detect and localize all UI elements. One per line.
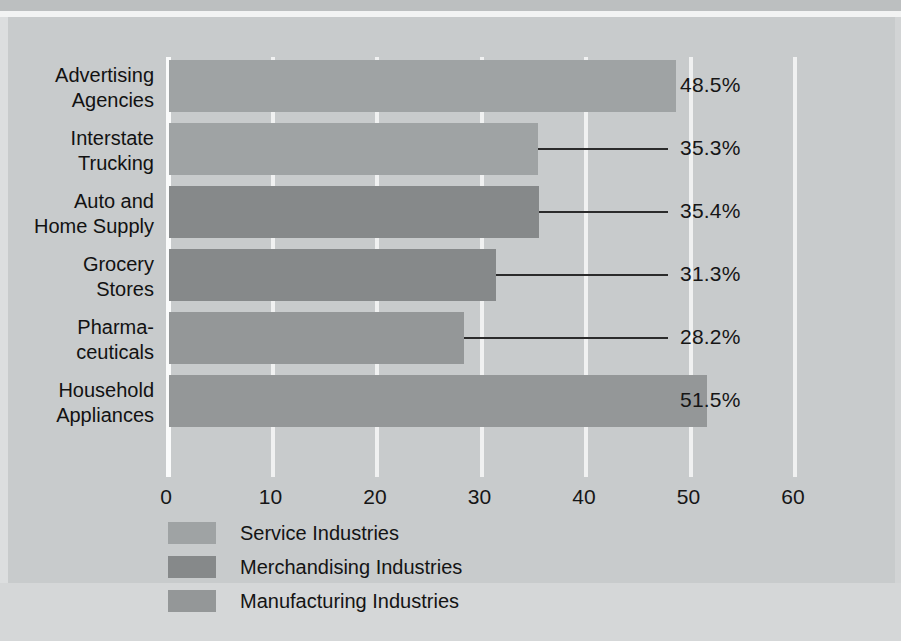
legend-swatch	[168, 590, 216, 612]
value-label: 51.5%	[680, 388, 741, 412]
x-tick-label: 50	[659, 485, 719, 509]
x-tick-label: 40	[554, 485, 614, 509]
category-label: Auto and Home Supply	[0, 189, 154, 239]
bar	[169, 312, 464, 364]
legend-item: Merchandising Industries	[168, 550, 462, 584]
scan-right-edge	[895, 17, 901, 641]
legend-item: Manufacturing Industries	[168, 584, 462, 618]
x-tick-label: 30	[450, 485, 510, 509]
category-label: Advertising Agencies	[0, 63, 154, 113]
category-label: Pharma- ceuticals	[0, 315, 154, 365]
value-label: 28.2%	[680, 325, 741, 349]
bar	[169, 375, 707, 427]
value-leader-line	[496, 274, 668, 276]
plot-area: Advertising Agencies48.5%Interstate Truc…	[8, 17, 895, 583]
legend-label: Merchandising Industries	[240, 556, 462, 579]
value-label: 31.3%	[680, 262, 741, 286]
value-label: 35.4%	[680, 199, 741, 223]
bar	[169, 60, 676, 112]
value-leader-line	[464, 337, 668, 339]
legend-item: Service Industries	[168, 516, 462, 550]
bar	[169, 186, 539, 238]
category-label: Grocery Stores	[0, 252, 154, 302]
x-tick-label: 0	[136, 485, 196, 509]
scan-top-band	[0, 0, 901, 11]
value-label: 48.5%	[680, 73, 741, 97]
legend-swatch	[168, 522, 216, 544]
gridline-60	[793, 57, 797, 477]
category-label: Household Appliances	[0, 378, 154, 428]
value-leader-line	[539, 211, 668, 213]
value-label: 35.3%	[680, 136, 741, 160]
x-tick-label: 10	[241, 485, 301, 509]
legend-label: Service Industries	[240, 522, 399, 545]
legend-label: Manufacturing Industries	[240, 590, 459, 613]
x-tick-label: 60	[763, 485, 823, 509]
value-leader-line	[538, 148, 668, 150]
chart-legend: Service IndustriesMerchandising Industri…	[168, 516, 462, 618]
bar	[169, 249, 496, 301]
category-label: Interstate Trucking	[0, 126, 154, 176]
chart-figure: Advertising Agencies48.5%Interstate Truc…	[0, 0, 901, 641]
bar	[169, 123, 538, 175]
legend-swatch	[168, 556, 216, 578]
x-tick-label: 20	[345, 485, 405, 509]
